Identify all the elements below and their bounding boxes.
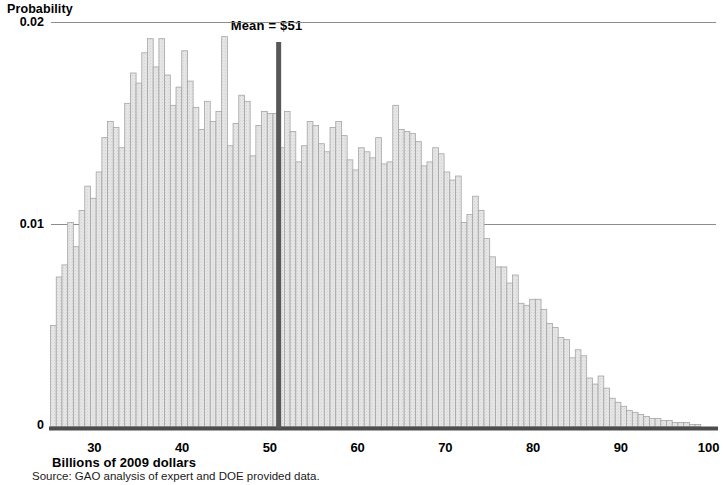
gridlines: [51, 23, 716, 225]
mean-annotation-label: Mean = $51: [231, 18, 303, 33]
histogram-bars: [51, 37, 701, 427]
x-tick-label-100: 100: [689, 440, 725, 455]
histogram-plot-area: [0, 0, 725, 485]
x-tick-label-60: 60: [338, 440, 378, 455]
y-tick-label-0-02: 0.02: [0, 15, 44, 29]
source-note: Source: GAO analysis of expert and DOE p…: [32, 470, 320, 482]
probability-histogram-figure: Probability Mean = $51 0.02 0.01 0 30405…: [0, 0, 725, 485]
x-tick-label-50: 50: [250, 440, 290, 455]
y-tick-label-0-01: 0.01: [0, 217, 44, 231]
x-tick-label-30: 30: [74, 440, 114, 455]
x-tick-label-90: 90: [601, 440, 641, 455]
x-axis-title: Billions of 2009 dollars: [52, 455, 196, 470]
x-tick-label-80: 80: [513, 440, 553, 455]
y-tick-label-0: 0: [0, 418, 44, 432]
x-tick-label-40: 40: [162, 440, 202, 455]
x-tick-label-70: 70: [425, 440, 465, 455]
